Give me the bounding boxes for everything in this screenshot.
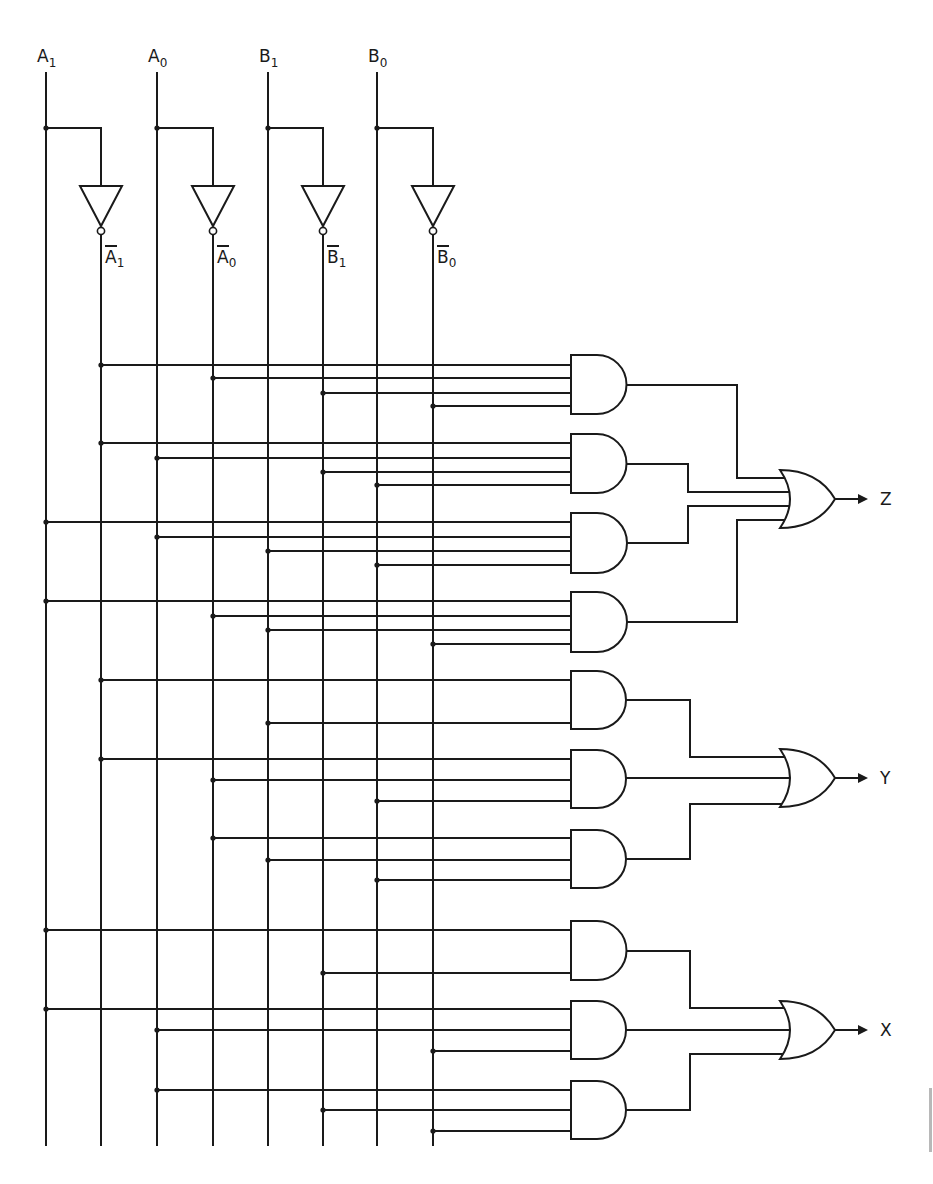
and-gate-5 bbox=[571, 671, 626, 729]
junction-dot bbox=[265, 720, 270, 725]
output-label-X: X bbox=[880, 1020, 892, 1040]
junction-dot bbox=[430, 1128, 435, 1133]
input-label-A0: A0 bbox=[148, 46, 167, 70]
junction-dot bbox=[154, 1087, 159, 1092]
route-and-4-to-Z bbox=[626, 520, 792, 622]
junction-dot bbox=[430, 403, 435, 408]
junction-dot bbox=[265, 627, 270, 632]
not-gate-nA1 bbox=[80, 186, 122, 226]
junction-dot bbox=[43, 519, 48, 524]
and-input-wires bbox=[43, 362, 571, 1133]
junction-dot bbox=[154, 455, 159, 460]
junction-dot bbox=[265, 548, 270, 553]
route-and-8-to-X bbox=[626, 951, 792, 1008]
page-edge-mark bbox=[929, 1088, 932, 1152]
output-label-Y: Y bbox=[879, 768, 891, 788]
and-gates bbox=[571, 355, 627, 1139]
or-gate-Z bbox=[780, 470, 835, 528]
inverted-label-nB1: B1 bbox=[327, 247, 346, 270]
route-and-5-to-Y bbox=[626, 700, 792, 757]
and-gate-4 bbox=[571, 592, 627, 652]
junction-dot bbox=[210, 835, 215, 840]
route-and-3-to-Z bbox=[626, 506, 792, 543]
and-gate-6 bbox=[571, 750, 626, 808]
junction-dot bbox=[98, 677, 103, 682]
input-label-A1: A1 bbox=[37, 46, 56, 70]
and-gate-2 bbox=[571, 434, 627, 493]
junction-dot bbox=[43, 927, 48, 932]
junction-dot bbox=[265, 857, 270, 862]
junction-dot bbox=[98, 756, 103, 761]
input-label-B1: B1 bbox=[259, 46, 278, 70]
and-gate-7 bbox=[571, 830, 626, 888]
inverted-label-nA1: A1 bbox=[105, 247, 124, 270]
arrow-icon bbox=[858, 1025, 868, 1035]
junction-dot bbox=[374, 877, 379, 882]
inverter-bubble bbox=[97, 227, 104, 234]
and-gate-1 bbox=[571, 355, 627, 414]
junction-dot bbox=[374, 798, 379, 803]
and-gate-3 bbox=[571, 513, 627, 573]
junction-dot bbox=[154, 1027, 159, 1032]
junction-dot bbox=[320, 1107, 325, 1112]
junction-dot bbox=[43, 1006, 48, 1011]
inverter-bubble bbox=[209, 227, 216, 234]
not-gate-nA0 bbox=[192, 186, 234, 226]
arrow-icon bbox=[858, 773, 868, 783]
output-label-Z: Z bbox=[880, 489, 892, 509]
branch-B1 bbox=[268, 128, 323, 186]
and-gate-9 bbox=[571, 1001, 626, 1059]
inverted-label-nB0: B0 bbox=[437, 247, 456, 270]
junction-dot bbox=[320, 970, 325, 975]
inverter-bubble bbox=[319, 227, 326, 234]
junction-dot bbox=[320, 390, 325, 395]
not-gate-nB0 bbox=[412, 186, 454, 226]
junction-dot bbox=[98, 362, 103, 367]
junction-dot bbox=[374, 562, 379, 567]
junction-dot bbox=[430, 641, 435, 646]
or-gates bbox=[626, 385, 868, 1110]
logic-circuit-diagram: A1A0B1B0A1A0B1B0ZYX bbox=[0, 0, 933, 1184]
and-gate-8 bbox=[571, 921, 627, 980]
junction-dot bbox=[430, 1048, 435, 1053]
junction-dot bbox=[154, 534, 159, 539]
input-label-B0: B0 bbox=[368, 46, 387, 70]
junction-dot bbox=[374, 482, 379, 487]
route-and-7-to-Y bbox=[626, 804, 792, 859]
branch-B0 bbox=[377, 128, 433, 186]
junction-dot bbox=[210, 375, 215, 380]
junction-dot bbox=[43, 598, 48, 603]
junction-dot bbox=[210, 777, 215, 782]
junction-dot bbox=[320, 469, 325, 474]
and-gate-10 bbox=[571, 1081, 626, 1139]
route-and-10-to-X bbox=[626, 1054, 792, 1110]
inverted-label-nA0: A0 bbox=[217, 247, 236, 270]
signal-labels: A1A0B1B0A1A0B1B0ZYX bbox=[37, 46, 892, 1040]
junction-dot bbox=[98, 440, 103, 445]
arrow-icon bbox=[858, 494, 868, 504]
branch-A0 bbox=[157, 128, 213, 186]
branch-A1 bbox=[46, 128, 101, 186]
not-gate-nB1 bbox=[302, 186, 344, 226]
junction-dot bbox=[210, 613, 215, 618]
inverter-bubble bbox=[429, 227, 436, 234]
